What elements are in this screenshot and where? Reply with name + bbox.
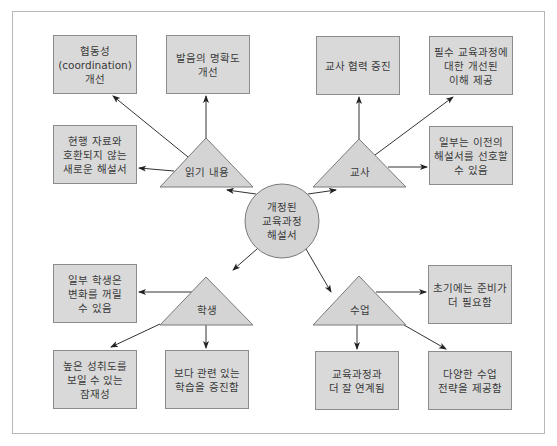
outcome-box-students-reluctant: 일부 학생은 변화를 꺼릴 수 있음 xyxy=(53,264,137,323)
outcome-box-prefer-previous-guide: 일부는 이전의 해설서를 선호할 수 있음 xyxy=(429,126,513,185)
outcome-box-higher-achievement: 높은 성취도를 보일 수 있는 잠재성 xyxy=(53,350,137,409)
hub-label: 개정된 교육과정 해설서 xyxy=(245,184,319,258)
arrow-student-to-achievement xyxy=(111,324,160,347)
outcome-box-improved-understanding: 필수 교육과정에 대한 개선된 이해 제공 xyxy=(429,36,513,95)
outcome-box-pronunciation: 발음의 명확도 개선 xyxy=(166,35,250,94)
category-label-instruction: 수업 xyxy=(313,300,407,320)
outcome-box-teacher-collaboration: 교사 협력 증진 xyxy=(316,36,400,95)
outcome-box-curriculum-alignment: 교육과정과 더 잘 연계됨 xyxy=(315,351,399,410)
outcome-box-new-guide-incompatible: 현행 자료와 호환되지 않는 새로운 해설서 xyxy=(53,125,137,184)
diagram-canvas: 개정된 교육과정 해설서 읽기 내용 교사 학생 수업 협동성 (coordin… xyxy=(0,0,557,446)
outcome-box-more-preparation: 초기에는 준비가 더 필요함 xyxy=(428,265,512,324)
outcome-box-relevant-learning: 보다 관련 있는 학습을 증진함 xyxy=(165,350,249,409)
outcome-box-coordination: 협동성 (coordination) 개선 xyxy=(53,35,137,94)
category-label-teacher: 교사 xyxy=(313,162,407,182)
category-label-student: 학생 xyxy=(160,300,254,320)
outcome-box-varied-strategies: 다양한 수업 전략을 제공함 xyxy=(428,351,512,410)
arrow-instruction-to-strategies xyxy=(404,325,446,349)
category-label-reading: 읽기 내용 xyxy=(160,162,254,182)
